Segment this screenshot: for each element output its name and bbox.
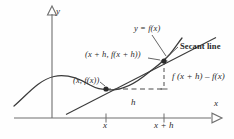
x-axis-arrowhead-icon [212,113,222,123]
tick-label-x: x [103,121,107,130]
point-upper-label: (x + h, f(x + h)) [85,50,141,59]
lower-point-label-leader [100,82,105,86]
rise-label: f (x + h) – f(x) [172,72,225,81]
y-axis-label: y [56,7,60,16]
curve-label-leader [152,35,166,56]
upper-point-label-leader [148,58,160,60]
x-axis-label: x [214,99,218,108]
secant-label-leader [166,47,178,58]
run-label: h [131,98,136,107]
curve-label: y = f(x) [134,24,160,33]
point-lower-marker [103,86,108,91]
tick-label-x-plus-h: x + h [154,121,174,130]
secant-line-label: Secant line [180,42,221,51]
point-lower-label: (x, f(x)) [73,76,99,85]
figure-canvas [0,0,234,139]
point-upper-marker [161,58,166,63]
secant-line-figure: y x y = f(x) Secant line (x + h, f(x + h… [0,0,234,139]
